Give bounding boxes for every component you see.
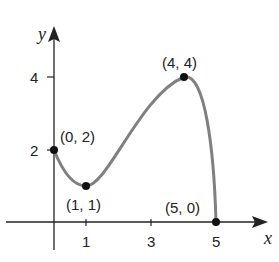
label-5-0: (5, 0) bbox=[165, 199, 200, 216]
y-axis-label: y bbox=[36, 24, 46, 44]
x-tick-label-5: 5 bbox=[212, 233, 220, 250]
label-1-1: (1, 1) bbox=[66, 196, 101, 213]
x-tick-label-1: 1 bbox=[82, 233, 90, 250]
point-0-2 bbox=[50, 146, 58, 154]
label-0-2: (0, 2) bbox=[60, 128, 95, 145]
label-4-4: (4, 4) bbox=[162, 54, 197, 71]
point-4-4 bbox=[180, 73, 188, 81]
y-tick-label-4: 4 bbox=[30, 69, 38, 86]
y-tick-label-2: 2 bbox=[30, 142, 38, 159]
x-tick-label-3: 3 bbox=[147, 233, 155, 250]
point-1-1 bbox=[82, 182, 90, 190]
function-graph: 1 3 5 4 2 x y (0, 2) (1, 1) (4, 4) (5, 0… bbox=[0, 0, 279, 262]
x-axis-label: x bbox=[263, 228, 272, 248]
point-5-0 bbox=[212, 218, 220, 226]
